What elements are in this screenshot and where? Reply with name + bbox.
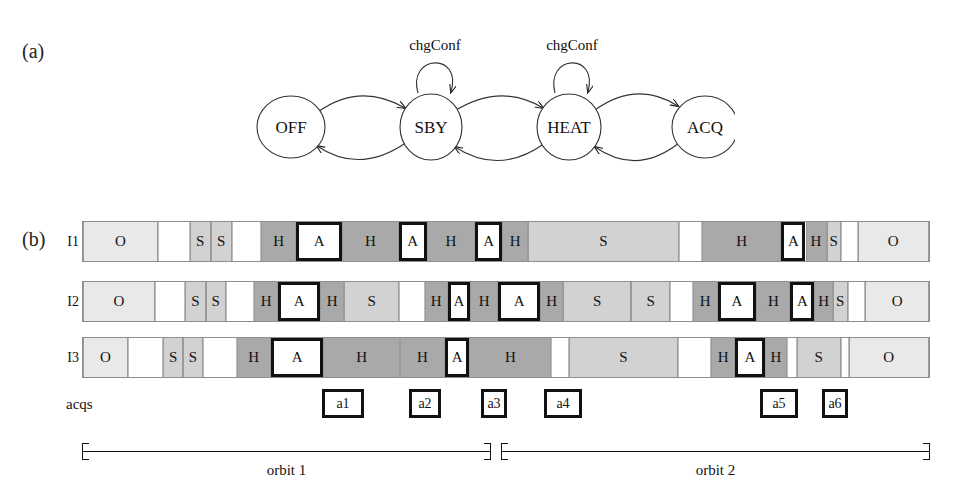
acq-box-label: a2 [418,396,431,412]
timeline-row-label-i3: I3 [57,350,79,366]
timeline-segment-label: A [314,233,325,250]
timeline-segment-label: O [115,233,126,250]
timeline-segment-label: A [483,233,494,250]
timeline-segment-h: H [806,222,827,261]
timeline-row-i2: OSSHAHSHAHAHSSHAHAHSO [82,281,930,322]
timeline-segment-label: S [169,349,177,366]
timeline-segment-s: S [631,282,670,321]
timeline-segment-label: A [294,293,305,310]
timeline-segment-s: S [185,282,205,321]
timeline-segment-a: A [735,338,765,377]
timeline-segment-h: H [540,282,563,321]
timeline-segment-label: H [700,293,711,310]
timeline-segment-label: A [407,233,418,250]
timeline-segment-label: S [593,293,601,310]
timeline-segment-h: H [254,282,278,321]
timeline-row-label-i2: I2 [57,294,79,310]
timeline-segment-a: A [271,338,324,377]
timeline-segment-w [128,338,163,377]
timeline-segment-label: S [647,293,655,310]
timeline-segment-w [670,282,693,321]
timeline-segment-label: S [599,233,607,250]
timeline-segment-s: S [569,338,679,377]
acq-box-a1: a1 [322,389,364,418]
timeline-segment-w [158,222,190,261]
timeline-segment-label: H [811,233,822,250]
timeline-segment-label: O [888,233,899,250]
timeline-segment-w [232,222,261,261]
orbit-axis-right-cap [923,443,930,460]
timeline-segment-s: S [163,338,183,377]
timeline-segment-w [841,338,849,377]
timeline-segment-label: H [327,293,338,310]
timeline-segment-a: A [445,338,469,377]
timeline-segment-h: H [756,282,790,321]
timeline-segment-label: H [510,233,521,250]
acq-box-label: a6 [828,396,841,412]
timeline-segment-label: A [745,349,756,366]
timeline-segment-label: A [797,293,808,310]
timeline-segment-label: S [211,293,219,310]
timeline-segment-h: H [765,338,787,377]
timeline-segment-h: H [502,222,528,261]
timeline-segment-a: A [296,222,341,261]
acq-box-a6: a6 [822,389,848,418]
timeline-segment-w [841,222,858,261]
timeline-row-label-i1: I1 [57,234,79,250]
timeline-segment-a: A [498,282,540,321]
timeline-segment-a: A [475,222,502,261]
timeline-segment-a: A [718,282,757,321]
timeline-segment-label: A [292,349,303,366]
timeline-segment-w [678,338,711,377]
timeline-segment-label: H [356,349,367,366]
timeline-segment-a: A [781,222,805,261]
timeline-segment-s: S [344,282,399,321]
timeline-segment-label: H [818,293,829,310]
timeline-segment-w [679,222,703,261]
timeline-segment-w [787,338,796,377]
timeline-segment-label: O [883,349,894,366]
timeline-segment-label: O [113,293,124,310]
timeline-segment-label: H [446,233,457,250]
orbit-axis-right-cap [484,443,491,460]
acq-box-a4: a4 [544,389,582,418]
timeline-segment-o: O [849,338,929,377]
acq-box-label: a4 [556,396,569,412]
timeline-segment-o: O [858,222,929,261]
timeline-segment-a: A [399,222,427,261]
timeline-segment-s: S [797,338,841,377]
timeline-segment-label: A [453,293,464,310]
timeline-segment-w [848,282,866,321]
timeline-row-i1: OSSHAHAHAHSHAHSO [82,221,930,262]
acq-box-a3: a3 [481,389,507,418]
timeline-segment-label: H [505,349,516,366]
timeline-segment-s: S [833,282,848,321]
timeline-segment-h: H [469,338,551,377]
timeline-segment-o: O [83,222,158,261]
timeline-segment-s: S [183,338,203,377]
timeline-segment-label: A [732,293,743,310]
acq-box-a5: a5 [760,389,798,418]
timeline-segment-label: H [417,349,428,366]
timeline-segment-h: H [400,338,445,377]
timeline-segment-label: H [479,293,490,310]
timeline-segment-label: H [736,233,747,250]
timeline-segment-h: H [425,282,448,321]
orbit-axis-line [82,451,491,452]
orbit-axis-label: orbit 1 [82,462,491,479]
timeline-segment-w [551,338,568,377]
timeline-segment-label: S [619,349,627,366]
timeline-segment-label: S [217,233,225,250]
timeline-segment-label: S [814,349,822,366]
timeline-segment-s: S [190,222,211,261]
timeline-segment-h: H [470,282,498,321]
timeline-segment-w [399,282,425,321]
timeline-segment-label: H [768,293,779,310]
timeline-segment-w [155,282,186,321]
timeline-segment-h: H [261,222,296,261]
timeline-segment-label: H [718,349,729,366]
timeline-segment-label: A [514,293,525,310]
timeline-segment-label: H [546,293,557,310]
timeline-segment-label: H [273,233,284,250]
timeline-segment-label: A [788,233,799,250]
